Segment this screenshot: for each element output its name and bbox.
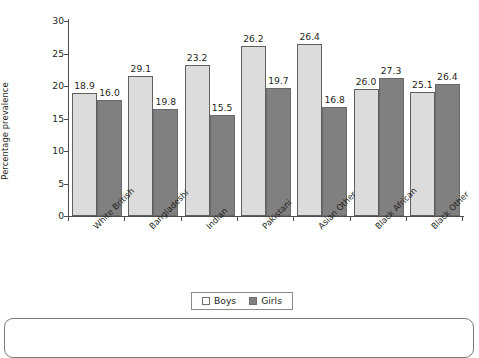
x-axis-tick-mark	[350, 216, 351, 221]
chart-legend: BoysGirls	[191, 292, 293, 310]
y-axis-tick-label: 20	[52, 80, 64, 91]
bar-value-label: 26.2	[237, 34, 270, 44]
legend-label: Girls	[261, 296, 282, 306]
bar-boys-3	[241, 46, 266, 216]
x-axis-tick-mark	[68, 216, 69, 221]
y-axis-tick-mark	[64, 184, 69, 185]
bar-boys-5	[354, 89, 379, 216]
bar-value-label: 15.5	[206, 103, 239, 113]
x-axis-tick-mark	[237, 216, 238, 221]
y-axis-tick-mark	[64, 54, 69, 55]
bar-girls-3	[266, 88, 291, 216]
bar-value-label: 26.4	[431, 72, 464, 82]
x-axis-tick-mark	[293, 216, 294, 221]
bar-girls-2	[210, 115, 235, 216]
legend-item-boys: Boys	[202, 296, 236, 306]
page-frame-rule	[4, 318, 474, 358]
bar-value-label: 16.8	[318, 95, 351, 105]
y-axis-tick: 30	[68, 21, 74, 22]
y-axis-tick-label: 10	[52, 145, 64, 156]
y-axis-tick-mark	[64, 21, 69, 22]
y-axis-tick-label: 5	[58, 178, 64, 189]
x-axis-tick-mark	[181, 216, 182, 221]
bar-value-label: 29.1	[124, 64, 157, 74]
legend-item-girls: Girls	[249, 296, 282, 306]
y-axis-tick-label: 30	[52, 15, 64, 26]
y-axis-title: Percentage prevalence	[0, 16, 14, 246]
x-axis-tick-mark	[406, 216, 407, 221]
y-axis-tick-label: 15	[52, 113, 64, 124]
y-axis-tick-label: 0	[58, 210, 64, 221]
bar-value-label: 26.4	[293, 32, 326, 42]
bar-value-label: 19.8	[149, 97, 182, 107]
bar-boys-0	[72, 93, 97, 216]
legend-swatch-boys	[202, 297, 210, 305]
bar-value-label: 27.3	[375, 66, 408, 76]
x-axis-tick-mark	[462, 216, 463, 221]
y-axis-tick-label: 25	[52, 48, 64, 59]
bar-value-label: 23.2	[181, 53, 214, 63]
bar-boys-4	[297, 44, 322, 216]
y-axis-tick-mark	[64, 119, 69, 120]
y-axis-tick: 25	[68, 54, 74, 55]
legend-label: Boys	[214, 296, 236, 306]
x-axis-tick-mark	[124, 216, 125, 221]
y-axis-tick-mark	[64, 151, 69, 152]
bar-value-label: 16.0	[93, 88, 126, 98]
legend-swatch-girls	[249, 297, 257, 305]
bar-value-label: 19.7	[262, 76, 295, 86]
